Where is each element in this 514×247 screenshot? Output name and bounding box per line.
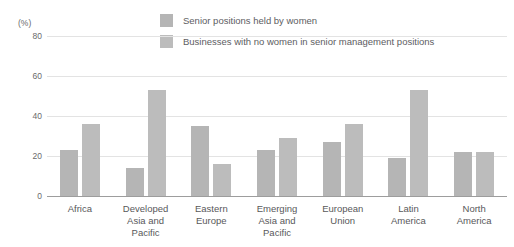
legend-item-senior-positions[interactable]: Senior positions held by women (160, 14, 434, 27)
bar[interactable] (323, 142, 341, 196)
bar[interactable] (126, 168, 144, 196)
bar[interactable] (191, 126, 209, 196)
x-axis-category-label: EmergingAsia and Pacific (244, 203, 310, 239)
x-axis-category-label-line: North (463, 203, 486, 214)
x-axis-category-label-line: Latin (398, 203, 419, 214)
bar[interactable] (257, 150, 275, 196)
bar[interactable] (410, 90, 428, 196)
x-axis-category-label: LatinAmerica (376, 203, 442, 239)
bar[interactable] (476, 152, 494, 196)
legend-item-label: Senior positions held by women (183, 14, 317, 27)
x-axis-category-label-line: Emerging (257, 203, 298, 214)
x-axis-category-label: EasternEurope (178, 203, 244, 239)
legend-swatch-icon (160, 14, 173, 27)
x-axis-category-label: Africa (47, 203, 113, 239)
bar-group (47, 36, 113, 196)
bar[interactable] (60, 150, 78, 196)
y-axis-tick-label: 60 (33, 71, 42, 81)
bar[interactable] (148, 90, 166, 196)
x-axis-category-label-line: America (376, 215, 442, 227)
plot-area: 020406080 (47, 36, 507, 196)
x-axis-category-label: EuropeanUnion (310, 203, 376, 239)
bar-group (376, 36, 442, 196)
x-axis-category-label-line: Europe (178, 215, 244, 227)
chart-container: (%) Senior positions held by women Busin… (0, 0, 514, 247)
bar[interactable] (454, 152, 472, 196)
y-axis-unit-label: (%) (18, 18, 31, 28)
x-axis-category-label-line: Union (310, 215, 376, 227)
y-axis-tick-label: 40 (33, 111, 42, 121)
x-axis-category-label: DevelopedAsia and Pacific (113, 203, 179, 239)
y-axis-tick-label: 0 (37, 191, 42, 201)
x-axis-category-label-line: America (441, 215, 507, 227)
bar-group (113, 36, 179, 196)
x-axis-category-label-line: Asia and Pacific (113, 215, 179, 239)
bar-group (244, 36, 310, 196)
bar[interactable] (82, 124, 100, 196)
x-axis-category-label-line: Asia and Pacific (244, 215, 310, 239)
x-axis-category-label-line: European (322, 203, 363, 214)
x-axis-labels: AfricaDevelopedAsia and PacificEasternEu… (47, 203, 507, 239)
bar[interactable] (388, 158, 406, 196)
bar[interactable] (345, 124, 363, 196)
y-axis-tick-label: 20 (33, 151, 42, 161)
bar-group (178, 36, 244, 196)
axis-baseline: 0 (47, 196, 507, 197)
bar-group (441, 36, 507, 196)
bar[interactable] (279, 138, 297, 196)
bar[interactable] (213, 164, 231, 196)
y-axis-tick-label: 80 (33, 31, 42, 41)
x-axis-category-label-line: Developed (123, 203, 168, 214)
bar-groups (47, 36, 507, 196)
x-axis-category-label: NorthAmerica (441, 203, 507, 239)
x-axis-category-label-line: Eastern (195, 203, 228, 214)
x-axis-category-label-line: Africa (68, 203, 92, 214)
bar-group (310, 36, 376, 196)
